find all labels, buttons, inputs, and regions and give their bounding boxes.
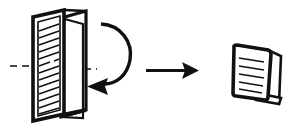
progression-straight-arrow [146, 62, 199, 79]
open-document-top-fold [64, 10, 86, 11]
closed-folded-document [233, 45, 281, 104]
diagram-root: Folded document rotation and closing ins… [0, 0, 294, 134]
rotation-curved-arrow [87, 24, 130, 95]
diagram-canvas [0, 0, 294, 134]
rotation-arrowhead [87, 78, 108, 95]
rotation-arc [101, 24, 130, 84]
open-folded-document [33, 10, 86, 121]
